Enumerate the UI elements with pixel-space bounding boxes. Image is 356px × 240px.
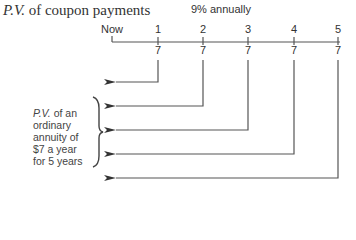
label-line1: of an: [51, 107, 77, 119]
label-line5: for 5 years: [33, 155, 83, 167]
discount-arrow-3: [116, 60, 248, 130]
label-line2: ordinary: [33, 119, 83, 131]
discount-arrow-4: [116, 60, 294, 154]
curly-brace: [93, 97, 103, 167]
discount-arrow-5: [116, 60, 338, 178]
discount-arrow-1: [116, 60, 158, 82]
discount-arrow-2: [116, 60, 203, 106]
label-line4: $7 a year: [33, 143, 83, 155]
annuity-label: P.V. of an ordinary annuity of $7 a year…: [33, 107, 83, 167]
label-pv: P.V.: [33, 107, 51, 119]
label-line3: annuity of: [33, 131, 83, 143]
